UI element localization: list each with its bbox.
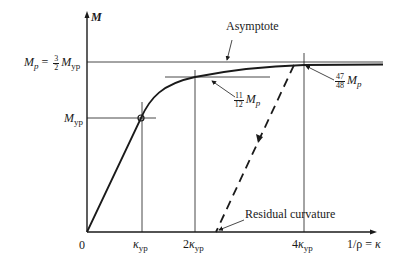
x-axis-arrow-icon xyxy=(370,230,377,235)
4kyp-label: 4κyp xyxy=(292,238,313,250)
asymptote-leader xyxy=(227,40,232,60)
kyp-label: κyp xyxy=(133,238,148,250)
y-axis-arrow-icon xyxy=(85,11,90,18)
asymptote-annotation: Asymptote xyxy=(226,20,279,32)
2kyp-label: 2κyp xyxy=(183,238,204,250)
mp-label: Mp = 32Myp xyxy=(24,55,80,72)
myp-label: Myp xyxy=(64,112,83,124)
fortyseven-annotation: 4748Mp xyxy=(333,73,362,90)
residual-curvature-annotation: Residual curvature xyxy=(245,208,335,220)
x-axis-label: 1/ρ = κ xyxy=(347,238,381,250)
diagram-canvas xyxy=(0,0,411,260)
origin-label: 0 xyxy=(79,239,85,251)
eleven-twelfths-annotation: 1112Mp xyxy=(232,92,260,109)
fortyseven-leader xyxy=(306,66,334,80)
residual-leader xyxy=(219,220,244,230)
y-axis-label: M xyxy=(91,11,102,23)
